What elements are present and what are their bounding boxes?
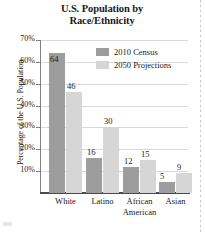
bar-value-label: 64 [50, 54, 59, 64]
chart-title-line-2: Race/Ethnicity [22, 15, 182, 27]
legend-swatch-icon-2050-projections [96, 61, 109, 69]
bar: 5 [159, 182, 175, 193]
scan-edge-artifact [200, 0, 201, 235]
y-tick-mark [36, 127, 40, 128]
bar: 64 [49, 53, 65, 193]
y-tick-label: 20% [20, 143, 35, 152]
bar: 16 [86, 158, 102, 193]
y-tick-mark [36, 171, 40, 172]
x-axis-label-line-2: American [117, 207, 162, 218]
y-tick-mark [36, 40, 40, 41]
bar-value-label: 46 [67, 81, 76, 91]
bar: 46 [66, 92, 82, 193]
legend-item-2050-projections: 2050 Projections [96, 58, 188, 71]
x-axis-label: Asian [153, 196, 198, 207]
bar: 30 [103, 127, 119, 193]
bar-value-label: 15 [141, 149, 150, 159]
y-tick-label: 10% [20, 165, 35, 174]
bar-value-label: 16 [87, 147, 96, 157]
x-axis-label-line-1: Asian [166, 196, 186, 206]
y-tick-label: 70% [20, 34, 35, 43]
legend-label-2050-projections: 2050 Projections [114, 60, 171, 70]
y-tick-mark [36, 149, 40, 150]
y-tick-label: 40% [20, 100, 35, 109]
legend-swatch-icon-2010-census [96, 48, 109, 56]
y-tick-label: 50% [20, 78, 35, 87]
bar-value-label: 9 [177, 162, 181, 172]
bar-value-label: 12 [124, 156, 133, 166]
bar: 9 [176, 173, 192, 193]
bar-group: 6446 [49, 40, 82, 193]
legend-item-2010-census: 2010 Census [96, 45, 188, 58]
x-axis-label-line-1: African [127, 196, 153, 206]
x-axis-labels: WhiteLatinoAfricanAmericanAsian [41, 196, 191, 232]
y-tick-mark [36, 62, 40, 63]
x-axis-label-line-1: White [55, 196, 76, 206]
chart-title: U.S. Population by Race/Ethnicity [22, 3, 182, 26]
chart-figure: U.S. Population by Race/Ethnicity Percen… [0, 0, 205, 235]
y-tick-mark [36, 84, 40, 85]
y-tick-label: 60% [20, 56, 35, 65]
chart-title-line-1: U.S. Population by [22, 3, 182, 15]
bar: 12 [123, 167, 139, 193]
y-tick-mark [36, 106, 40, 107]
bar-value-label: 5 [160, 171, 164, 181]
scan-smudge-artifact [3, 222, 12, 226]
legend-label-2010-census: 2010 Census [114, 47, 158, 57]
chart-legend: 2010 Census 2050 Projections [96, 45, 188, 71]
bar: 15 [140, 160, 156, 193]
x-axis-label-line-1: Latino [91, 196, 113, 206]
y-tick-label: 30% [20, 121, 35, 130]
bar-value-label: 30 [104, 116, 113, 126]
